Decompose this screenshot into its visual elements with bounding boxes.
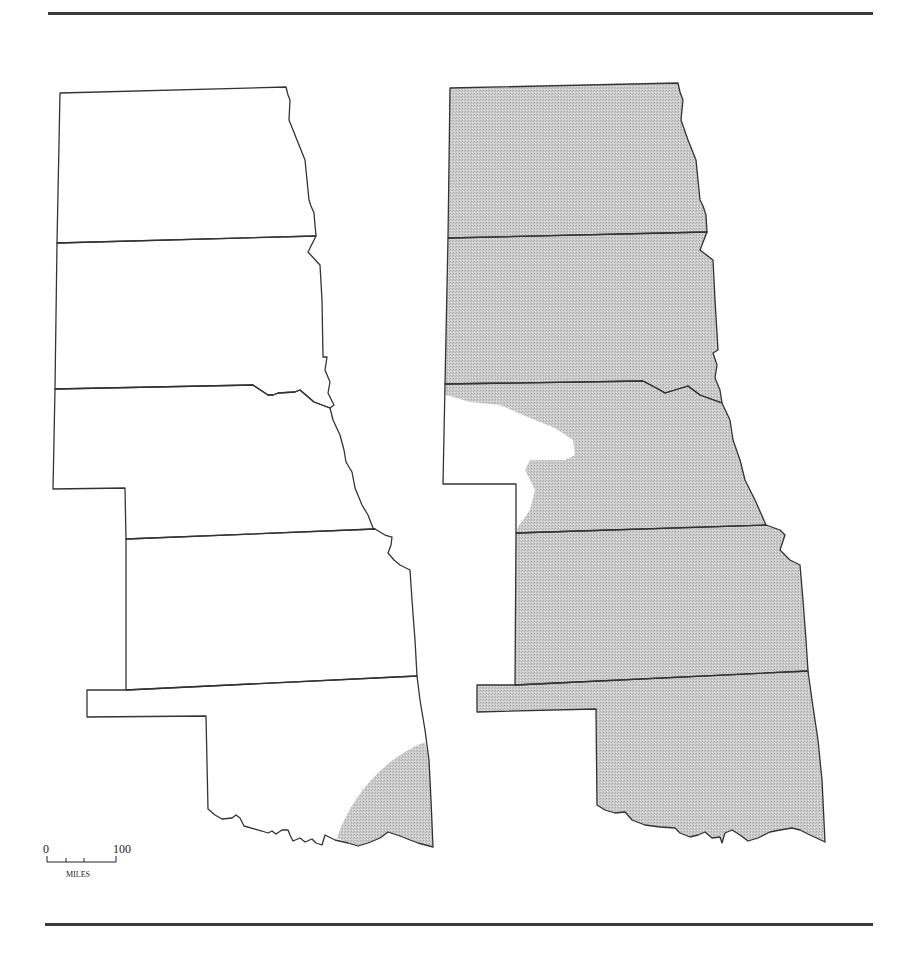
scale-end-label: 100 <box>113 842 131 856</box>
scale-unit-label: MILES <box>66 870 90 879</box>
left-shaded-region-se-oklahoma <box>337 742 433 847</box>
right-shaded-region <box>445 83 825 843</box>
left-state-south-dakota <box>55 236 334 408</box>
scale-bar: 0 100 MILES <box>43 842 131 879</box>
right-map <box>443 83 825 843</box>
left-state-kansas <box>126 529 417 690</box>
left-state-north-dakota <box>57 87 316 243</box>
map-figure: 0 100 MILES <box>0 0 904 957</box>
left-map <box>53 87 433 847</box>
left-state-nebraska <box>53 385 375 539</box>
scale-bar-line <box>47 856 116 862</box>
scale-start-label: 0 <box>43 842 49 856</box>
